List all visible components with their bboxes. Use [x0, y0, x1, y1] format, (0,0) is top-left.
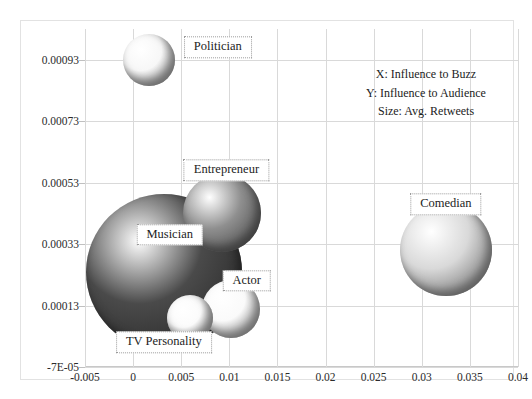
x-axis-tick-label: 0.005 [168, 371, 194, 383]
y-axis: -7E-050.000130.000330.000530.000730.0009… [21, 29, 79, 367]
chart-container: -7E-050.000130.000330.000530.000730.0009… [20, 20, 514, 380]
y-axis-tick-label: 0.00053 [42, 177, 79, 189]
x-axis-tick-label: -0.005 [70, 371, 100, 383]
x-axis-tick-label: 0.035 [457, 371, 483, 383]
gridline-horizontal [85, 367, 518, 368]
legend-line-x: X: Influence to Buzz [341, 65, 511, 84]
y-axis-tick-label: 0.00073 [42, 115, 79, 127]
data-label-actor[interactable]: Actor [222, 270, 270, 291]
y-axis-tick-label: 0.00013 [42, 300, 79, 312]
data-label-entrepreneur[interactable]: Entrepreneur [184, 160, 269, 181]
data-label-musician[interactable]: Musician [136, 224, 203, 245]
data-label-politician[interactable]: Politician [184, 37, 252, 58]
x-axis-tick-label: 0.03 [412, 371, 432, 383]
y-axis-tick-label: 0.00033 [42, 238, 79, 250]
x-axis-tick-label: 0.025 [361, 371, 387, 383]
clipped-top-text: a clipped line of text cut off above the… [0, 0, 532, 12]
x-axis-tick-label: 0.02 [315, 371, 335, 383]
legend-line-y: Y: Influence to Audience [341, 84, 511, 103]
legend: X: Influence to Buzz Y: Influence to Aud… [341, 65, 511, 121]
gridline-vertical [277, 29, 278, 367]
gridline-horizontal [85, 183, 518, 184]
legend-line-size: Size: Avg. Retweets [341, 102, 511, 121]
bubble-comedian[interactable] [400, 204, 492, 296]
y-axis-tick-label: 0.00093 [42, 54, 79, 66]
x-axis-tick-label: 0 [130, 371, 136, 383]
x-axis-tick-label: 0.015 [265, 371, 291, 383]
gridline-horizontal [85, 121, 518, 122]
data-label-comedian[interactable]: Comedian [410, 193, 481, 214]
data-label-tv-personality[interactable]: TV Personality [116, 332, 212, 353]
x-axis: -0.00500.0050.010.0150.020.0250.030.0350… [21, 371, 515, 389]
gridline-vertical [326, 29, 327, 367]
gridline-vertical [85, 29, 86, 367]
x-axis-tick-label: 0.01 [219, 371, 239, 383]
x-axis-tick-label: 0.04 [508, 371, 528, 383]
bubble-politician[interactable] [123, 34, 175, 86]
gridline-vertical [518, 29, 519, 367]
